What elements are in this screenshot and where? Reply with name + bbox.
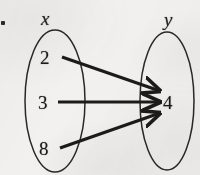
mapping-diagram-figure: x y 2 3 8 4 [0,0,200,175]
codomain-variable-label: y [164,10,172,29]
domain-variable-label: x [41,9,49,28]
domain-element-2: 2 [40,48,50,67]
domain-element-8: 8 [39,139,49,158]
domain-element-3: 3 [38,93,48,112]
codomain-element-4: 4 [163,93,173,112]
